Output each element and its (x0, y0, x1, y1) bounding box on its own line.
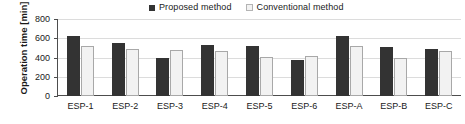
bar-conventional (350, 46, 363, 96)
bar-conventional (260, 57, 273, 96)
bar-group (58, 19, 103, 96)
y-axis-tick-label: 400 (20, 53, 50, 62)
bar-group (416, 19, 461, 96)
bar-conventional (170, 50, 183, 96)
x-axis-tick-label: ESP-3 (148, 100, 193, 114)
bar-proposed (156, 58, 169, 97)
x-axis-tick-label: ESP-6 (282, 100, 327, 114)
x-axis-tick-label: ESP-B (371, 100, 416, 114)
bar-proposed (246, 46, 259, 96)
bar-group (371, 19, 416, 96)
legend-swatch-icon-conventional (246, 4, 253, 11)
x-axis-tick-label: ESP-5 (237, 100, 282, 114)
legend-swatch-icon-proposed (149, 5, 155, 11)
bar-conventional (439, 51, 452, 96)
x-axis-tick-label: ESP-A (327, 100, 372, 114)
bar-proposed (291, 60, 304, 96)
bar-group (282, 19, 327, 96)
y-axis-tick-label: 200 (20, 72, 50, 81)
x-axis-tick-label: ESP-4 (192, 100, 237, 114)
y-axis-tick-mark (54, 96, 58, 97)
y-axis-tick-label: 800 (20, 15, 50, 24)
y-axis-tick-label: 600 (20, 34, 50, 43)
bar-groups (58, 19, 461, 96)
bar-chart: Proposed method Conventional method Oper… (0, 0, 465, 124)
bar-proposed (380, 47, 393, 96)
bar-conventional (394, 58, 407, 97)
bar-proposed (201, 45, 214, 96)
y-axis-tick-label: 0 (20, 92, 50, 101)
bar-proposed (112, 43, 125, 96)
bar-group (192, 19, 237, 96)
bar-proposed (336, 36, 349, 96)
bar-group (237, 19, 282, 96)
bar-conventional (305, 56, 318, 96)
plot-area (57, 19, 461, 96)
bar-group (148, 19, 193, 96)
x-axis-tick-label: ESP-2 (103, 100, 148, 114)
chart-legend: Proposed method Conventional method (149, 1, 344, 14)
x-axis-tick-label: ESP-C (416, 100, 461, 114)
y-axis-tick-labels: 8006004002000 (20, 14, 50, 100)
bar-conventional (126, 49, 139, 96)
bar-group (103, 19, 148, 96)
legend-item-conventional-method: Conventional method (246, 3, 344, 12)
x-axis-tick-labels: ESP-1ESP-2ESP-3ESP-4ESP-5ESP-6ESP-AESP-B… (58, 100, 461, 114)
bar-conventional (81, 46, 94, 96)
bar-proposed (425, 49, 438, 96)
legend-label-proposed: Proposed method (159, 3, 232, 12)
bar-conventional (215, 51, 228, 96)
bar-group (327, 19, 372, 96)
legend-item-proposed-method: Proposed method (149, 3, 232, 12)
x-axis-tick-label: ESP-1 (58, 100, 103, 114)
legend-label-conventional: Conventional method (257, 3, 344, 12)
bar-proposed (67, 36, 80, 96)
